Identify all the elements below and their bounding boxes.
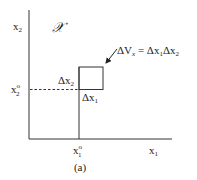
volume-element-square — [79, 67, 103, 90]
tick-x1-origin-label: xo1 — [73, 143, 83, 159]
caption: (a) — [74, 161, 87, 174]
pointer-arrow — [106, 49, 117, 63]
axis-x-label: x1 — [149, 144, 159, 158]
diagram: x2 𝒳 ΔVx = Δx1Δx2 Δx2 Δx1 xo2 xo1 x1 (a) — [0, 0, 197, 180]
tick-x2-origin-label: xo2 — [11, 82, 21, 98]
axis-y-label: x2 — [13, 20, 23, 34]
space-symbol: 𝒳 — [52, 20, 68, 35]
delta-x1-label: Δx1 — [82, 91, 99, 105]
delta-x2-label: Δx2 — [58, 74, 75, 88]
volume-equation: ΔVx = Δx1Δx2 — [117, 44, 180, 58]
